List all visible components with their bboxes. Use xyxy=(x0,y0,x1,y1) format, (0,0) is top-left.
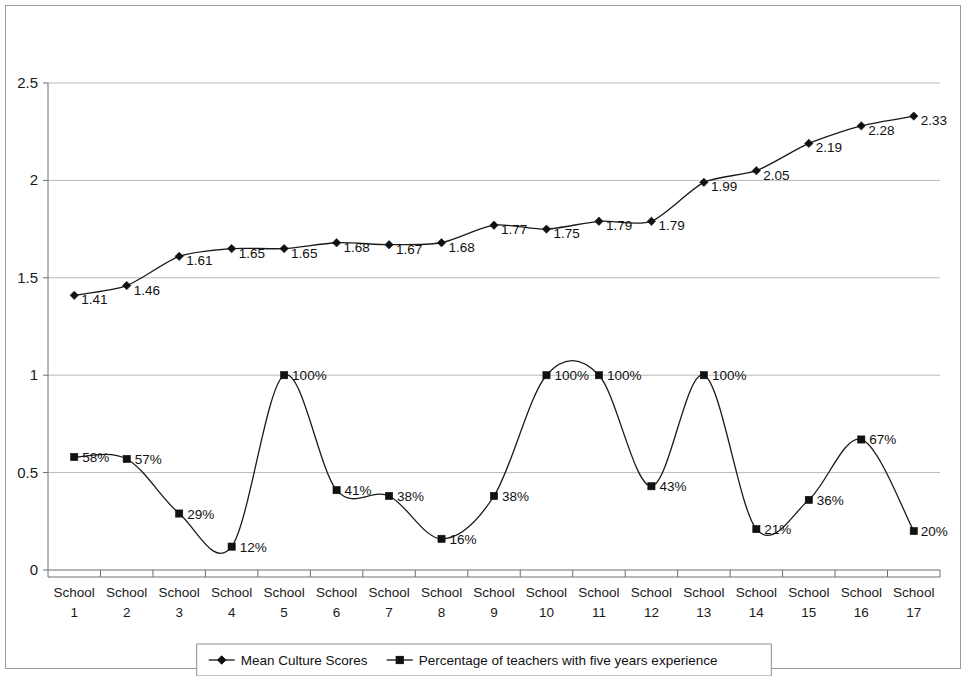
data-point-marker xyxy=(858,436,865,443)
data-point-marker xyxy=(910,112,918,120)
data-point-label: 1.61 xyxy=(186,253,212,268)
y-axis-tick-labels: 00.511.522.5 xyxy=(17,74,38,578)
data-point-marker xyxy=(280,244,288,252)
data-point-label: 1.77 xyxy=(501,222,527,237)
y-axis-tick-label: 1 xyxy=(30,366,38,383)
data-point-marker xyxy=(70,291,78,299)
data-point-marker xyxy=(123,281,131,289)
x-axis-category-label: School3 xyxy=(159,585,200,620)
data-point-label: 57% xyxy=(135,452,162,467)
x-axis-category-label: School6 xyxy=(316,585,357,620)
x-axis-category-label: School4 xyxy=(211,585,252,620)
data-point-label: 1.79 xyxy=(658,218,684,233)
x-axis-category-label: School13 xyxy=(683,585,724,620)
x-axis-category-label: School8 xyxy=(421,585,462,620)
data-point-label: 36% xyxy=(817,493,844,508)
y-axis-tick-label: 0 xyxy=(30,561,38,578)
data-point-marker xyxy=(490,492,497,499)
data-point-marker xyxy=(385,240,393,248)
data-point-label: 43% xyxy=(659,479,686,494)
y-axis-tick-label: 2 xyxy=(30,171,38,188)
data-point-label: 16% xyxy=(450,532,477,547)
x-axis-category-label: School5 xyxy=(263,585,304,620)
x-axis-category-label: School9 xyxy=(473,585,514,620)
x-axis-category-label: School12 xyxy=(631,585,672,620)
data-point-label: 21% xyxy=(764,522,791,537)
data-point-label: 1.46 xyxy=(134,283,160,298)
data-point-label: 12% xyxy=(240,540,267,555)
data-point-label: 2.33 xyxy=(921,113,947,128)
data-point-marker xyxy=(805,496,812,503)
data-point-marker xyxy=(700,178,708,186)
data-point-label: 29% xyxy=(187,507,214,522)
x-axis-category-label: School17 xyxy=(893,585,934,620)
data-point-label: 58% xyxy=(82,450,109,465)
legend-label-2: Percentage of teachers with five years e… xyxy=(419,653,718,668)
data-point-marker xyxy=(385,492,392,499)
data-point-label: 100% xyxy=(712,368,747,383)
y-axis-tick-label: 2.5 xyxy=(17,74,38,91)
data-point-marker xyxy=(438,535,445,542)
data-point-label: 1.67 xyxy=(396,242,422,257)
data-point-marker xyxy=(595,217,603,225)
data-point-marker xyxy=(490,221,498,229)
data-point-label: 1.75 xyxy=(553,226,579,241)
data-point-marker xyxy=(753,525,760,532)
data-point-marker xyxy=(71,453,78,460)
chart-container: 00.511.522.5 School1School2School3School… xyxy=(0,0,968,676)
data-point-marker xyxy=(175,252,183,260)
data-point-label: 41% xyxy=(345,483,372,498)
data-point-label: 67% xyxy=(869,432,896,447)
data-point-marker xyxy=(542,225,550,233)
data-point-marker xyxy=(805,139,813,147)
x-axis-category-label: School1 xyxy=(54,585,95,620)
data-point-marker xyxy=(437,239,445,247)
data-point-label: 20% xyxy=(921,524,948,539)
data-point-marker xyxy=(333,487,340,494)
data-point-marker xyxy=(176,510,183,517)
x-axis-category-label: School16 xyxy=(841,585,882,620)
data-point-marker xyxy=(595,372,602,379)
data-point-label: 2.05 xyxy=(763,168,789,183)
data-point-marker xyxy=(648,483,655,490)
data-point-label: 100% xyxy=(292,368,327,383)
data-point-marker xyxy=(910,527,917,534)
legend-square-icon xyxy=(396,656,403,663)
y-axis-tick-label: 1.5 xyxy=(17,269,38,286)
legend-label-1: Mean Culture Scores xyxy=(241,653,368,668)
data-point-label: 1.68 xyxy=(449,240,475,255)
x-axis-category-labels: School1School2School3School4School5Schoo… xyxy=(54,585,935,620)
y-axis-tick-label: 0.5 xyxy=(17,464,38,481)
data-point-label: 100% xyxy=(554,368,589,383)
x-axis-category-label: School10 xyxy=(526,585,567,620)
data-point-marker xyxy=(700,372,707,379)
series-markers xyxy=(70,112,918,550)
data-point-marker xyxy=(543,372,550,379)
series-line-1 xyxy=(74,116,914,295)
data-point-marker xyxy=(332,239,340,247)
data-point-marker xyxy=(228,543,235,550)
data-point-label: 1.79 xyxy=(606,218,632,233)
data-point-marker xyxy=(227,244,235,252)
data-point-label: 2.19 xyxy=(816,140,842,155)
x-axis-category-label: School15 xyxy=(788,585,829,620)
data-point-marker xyxy=(281,372,288,379)
data-point-label: 1.41 xyxy=(81,292,107,307)
line-chart: 00.511.522.5 School1School2School3School… xyxy=(0,0,968,676)
data-point-label: 38% xyxy=(397,489,424,504)
data-point-label: 2.28 xyxy=(868,123,894,138)
chart-legend: Mean Culture ScoresPercentage of teacher… xyxy=(197,644,772,676)
data-point-marker xyxy=(752,166,760,174)
data-point-label: 1.99 xyxy=(711,179,737,194)
x-axis-category-label: School7 xyxy=(368,585,409,620)
data-point-marker xyxy=(647,217,655,225)
data-point-label: 38% xyxy=(502,489,529,504)
x-axis-category-label: School14 xyxy=(736,585,777,620)
data-point-label: 1.65 xyxy=(239,246,265,261)
data-point-label: 100% xyxy=(607,368,642,383)
data-point-label: 1.65 xyxy=(291,246,317,261)
data-point-marker xyxy=(857,122,865,130)
data-point-marker xyxy=(123,455,130,462)
x-axis-category-label: School2 xyxy=(106,585,147,620)
x-axis-category-label: School11 xyxy=(578,585,619,620)
